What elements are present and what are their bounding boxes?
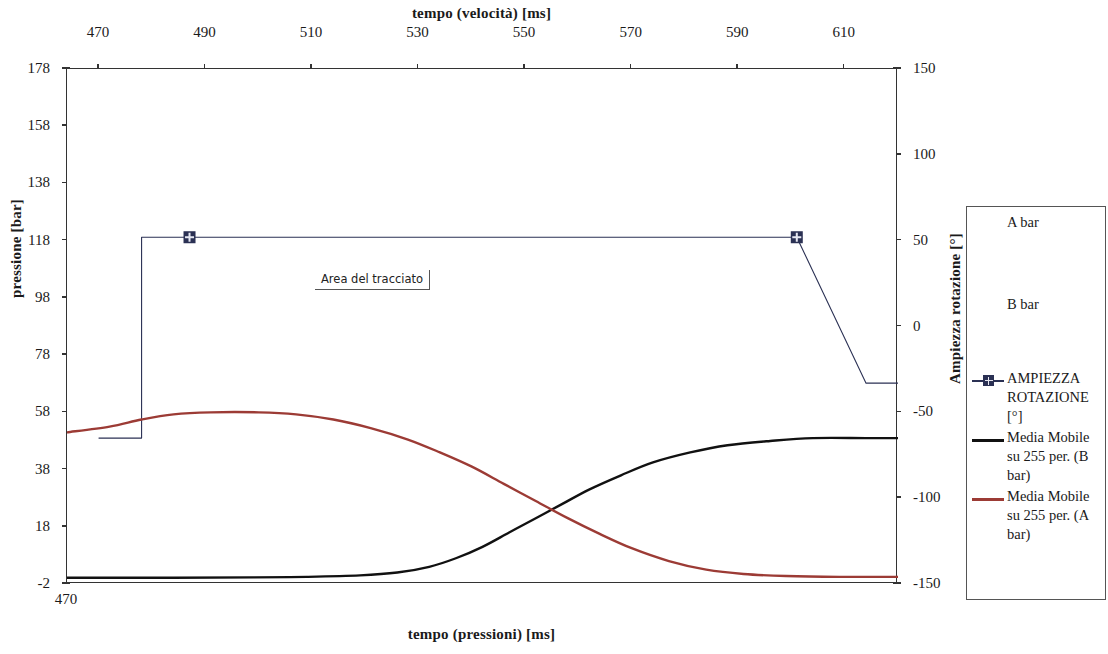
right-tick-label: -150 [913,575,941,592]
right-tick-label: 100 [913,145,936,162]
top-tick-label: 570 [619,24,642,41]
left-axis-title: pressione [bar] [8,149,25,349]
right-tick-label: -100 [913,489,941,506]
left-tick-label: -2 [0,575,50,592]
top-tick-label: 590 [726,24,749,41]
top-axis-title: tempo (velocità) [ms] [0,5,897,22]
series-line [67,412,898,577]
series-marker [791,231,803,243]
legend-item[interactable]: A bar [971,213,1101,237]
legend-swatch-icon [971,298,1005,315]
left-tick-label: 38 [0,460,50,477]
left-tick-label: 58 [0,403,50,420]
legend-swatch-icon [971,490,1005,507]
top-tick-label: 490 [193,24,216,41]
right-tick-label: 50 [913,231,928,248]
legend-item-label: B bar [1005,295,1039,314]
right-tick-label: 0 [913,317,921,334]
top-tick-label: 550 [513,24,536,41]
series-line [67,438,898,578]
top-tick-label: 610 [832,24,855,41]
right-tick-label: 150 [913,60,936,77]
right-tick-label: -50 [913,403,933,420]
series-layer [67,69,898,584]
legend-swatch-icon [971,431,1005,448]
left-tick-label: 18 [0,517,50,534]
legend-swatch-icon [971,216,1005,233]
series-line [99,237,898,438]
top-tick-label: 530 [406,24,429,41]
series-marker [184,231,196,243]
legend-item[interactable]: B bar [971,295,1101,319]
plot-annotation-label: Area del tracciato [315,270,430,290]
legend-item-label: Media Mobile su 255 per. (B bar) [1005,428,1101,485]
top-tick-label: 510 [300,24,323,41]
bottom-tick-label: 470 [55,591,78,608]
legend-item[interactable]: Media Mobile su 255 per. (A bar) [971,487,1101,544]
bottom-axis-title: tempo (pressioni) [ms] [0,626,897,643]
legend-item[interactable]: Media Mobile su 255 per. (B bar) [971,428,1101,485]
left-tick-label: 178 [0,60,50,77]
legend-item-label: Media Mobile su 255 per. (A bar) [1005,487,1101,544]
chart-legend: A barB barAMPIEZZA ROTAZIONE [°]Media Mo… [966,206,1106,600]
legend-item[interactable]: AMPIEZZA ROTAZIONE [°] [971,369,1101,426]
top-tick-label: 470 [87,24,110,41]
legend-swatch-icon [971,372,1005,389]
right-axis-title: Ampiezza rotazione [°] [947,209,964,409]
legend-item-label: A bar [1005,213,1039,232]
legend-item-label: AMPIEZZA ROTAZIONE [°] [1005,369,1101,426]
left-tick-label: 158 [0,117,50,134]
plot-area [66,68,897,583]
chart-canvas: tempo (velocità) [ms] 470490510530550570… [0,0,950,654]
